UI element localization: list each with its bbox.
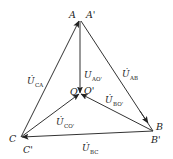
label-u-ao: U AO' (84, 70, 102, 82)
svg-text:U̇: U̇ (122, 68, 130, 79)
phasor-u-bo-line (81, 94, 153, 131)
phasor-u-bc-line (22, 131, 153, 137)
svg-text:U̇: U̇ (27, 75, 35, 86)
label-u-ca: U̇ CA (27, 75, 44, 88)
svg-text:CO': CO' (64, 123, 74, 129)
phasor-u-co-line (21, 94, 79, 137)
point-o-label: O (70, 86, 78, 97)
phasor-diagram: A A' O O' C C' B B' U̇ CA U AO' U̇ AB U̇… (0, 0, 173, 159)
svg-text:BO': BO' (113, 101, 123, 107)
point-a-prime-label: A' (85, 9, 95, 20)
svg-text:U̇: U̇ (82, 142, 90, 153)
svg-text:AO': AO' (91, 76, 102, 82)
phasor-u-ab-arrow (140, 111, 148, 123)
svg-text:CA: CA (35, 82, 44, 88)
svg-text:AB: AB (129, 75, 138, 81)
point-c-label: C (9, 133, 17, 144)
svg-text:BC: BC (90, 149, 98, 155)
svg-text:U̇: U̇ (105, 94, 113, 105)
label-u-co: U̇ CO' (56, 116, 74, 129)
point-b-prime-label: B' (150, 134, 161, 145)
label-u-ab: U̇ AB (122, 68, 138, 81)
svg-text:U̇: U̇ (56, 116, 64, 127)
point-b-label: B (155, 121, 163, 132)
point-o-prime-label: O' (84, 85, 94, 96)
label-u-bo: U̇ BO' (105, 94, 123, 107)
label-u-bc: U̇ BC (82, 142, 98, 155)
svg-text:U: U (84, 70, 92, 80)
point-c-prime-label: C' (23, 144, 33, 155)
point-a-label: A (68, 9, 76, 20)
